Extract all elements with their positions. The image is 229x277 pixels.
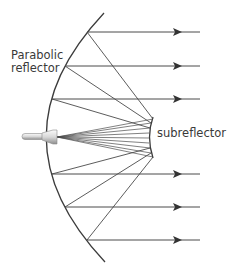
parabolic-label-line2: reflector (11, 62, 63, 75)
feed-horn (22, 130, 57, 144)
parabolic-reflector-label: Parabolic reflector (11, 49, 63, 75)
subreflector-label: subreflector (157, 127, 226, 140)
